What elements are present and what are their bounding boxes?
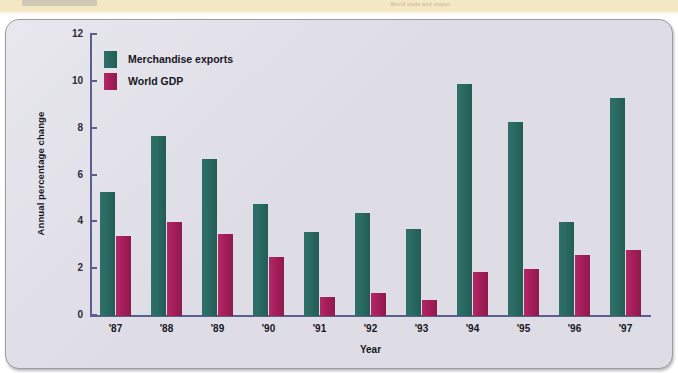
x-axis-title: Year [90,344,651,355]
bar-merchandise-exports-94 [457,84,472,316]
y-axis-tick-label: 12 [53,29,83,39]
bar-merchandise-exports-91 [304,232,319,316]
x-axis-tick-label: '94 [453,323,493,334]
bar-world-gdp-94 [473,272,488,316]
bar-world-gdp-88 [167,222,182,316]
y-axis-line [90,34,92,317]
bar-world-gdp-89 [218,234,233,316]
bar-merchandise-exports-90 [253,204,268,316]
x-axis-tick-label: '92 [351,323,391,334]
y-axis-tick-label: 4 [53,216,83,226]
bar-world-gdp-92 [371,293,386,316]
chart-panel: 024681012 Annual percentage change '87'8… [5,19,673,369]
legend-swatch-icon [104,51,117,68]
bar-merchandise-exports-96 [559,222,574,316]
bar-world-gdp-87 [116,236,131,316]
y-axis-tick-label: 8 [53,123,83,133]
y-axis-tick [90,314,97,316]
bar-merchandise-exports-87 [100,192,115,316]
bar-merchandise-exports-88 [151,136,166,316]
bar-world-gdp-90 [269,257,284,316]
banner-tab-block [22,0,97,6]
legend-label: World GDP [128,75,183,87]
banner-fade [0,11,678,14]
x-axis-tick-label: '97 [606,323,646,334]
legend-swatch-icon [104,73,117,90]
bar-world-gdp-96 [575,255,590,316]
bar-chart-plot-area: 024681012 Annual percentage change '87'8… [6,20,672,368]
banner-caption: World trade and output [390,1,450,7]
x-axis-tick-label: '90 [249,323,289,334]
bar-world-gdp-95 [524,269,539,316]
y-axis-tick [90,174,97,176]
x-axis-tick-label: '87 [96,323,136,334]
x-axis-tick-label: '95 [504,323,544,334]
x-axis-tick-label: '88 [147,323,187,334]
bar-merchandise-exports-95 [508,122,523,316]
x-axis-tick-label: '96 [555,323,595,334]
y-axis-tick [90,127,97,129]
bar-merchandise-exports-97 [610,98,625,316]
bar-merchandise-exports-93 [406,229,421,316]
page-banner-strip: World trade and output [0,0,678,14]
y-axis-tick [90,220,97,222]
bar-world-gdp-91 [320,297,335,316]
x-axis-tick-label: '91 [300,323,340,334]
legend-item: World GDP [104,70,233,92]
y-axis-tick-label: 0 [53,310,83,320]
y-axis-title: Annual percentage change [35,99,46,249]
chart-legend: Merchandise exportsWorld GDP [104,48,233,92]
x-axis-tick-label: '89 [198,323,238,334]
y-axis-tick [90,80,97,82]
bar-world-gdp-93 [422,300,437,316]
y-axis-tick-label: 6 [53,170,83,180]
y-axis-tick [90,267,97,269]
legend-label: Merchandise exports [128,53,233,65]
bar-merchandise-exports-92 [355,213,370,316]
y-axis-tick-label: 10 [53,76,83,86]
bar-merchandise-exports-89 [202,159,217,316]
bar-world-gdp-97 [626,250,641,316]
legend-item: Merchandise exports [104,48,233,70]
y-axis-tick-label: 2 [53,263,83,273]
y-axis-tick [90,33,97,35]
x-axis-tick-label: '93 [402,323,442,334]
